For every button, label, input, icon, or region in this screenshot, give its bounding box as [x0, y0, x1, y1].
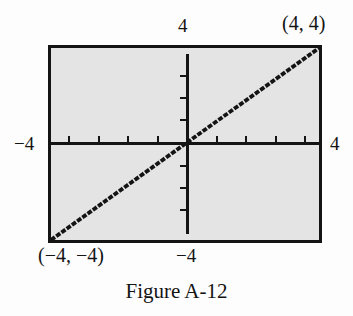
- axis-label-y-min: −4: [176, 246, 196, 265]
- plot-frame: [48, 45, 322, 243]
- axis-label-x-max: 4: [330, 134, 340, 153]
- point-annotation-top-right: (4, 4): [282, 13, 325, 33]
- plot-area: [51, 48, 319, 240]
- data-series-y-equals-x: [51, 48, 319, 240]
- axis-label-x-min: −4: [14, 134, 34, 153]
- figure-caption: Figure A-12: [0, 279, 353, 304]
- axis-label-y-max: 4: [178, 16, 188, 35]
- figure-container: 4 (4, 4) −4 4 −4 (−4, −4): [0, 0, 353, 316]
- point-annotation-bottom-left: (−4, −4): [38, 245, 104, 265]
